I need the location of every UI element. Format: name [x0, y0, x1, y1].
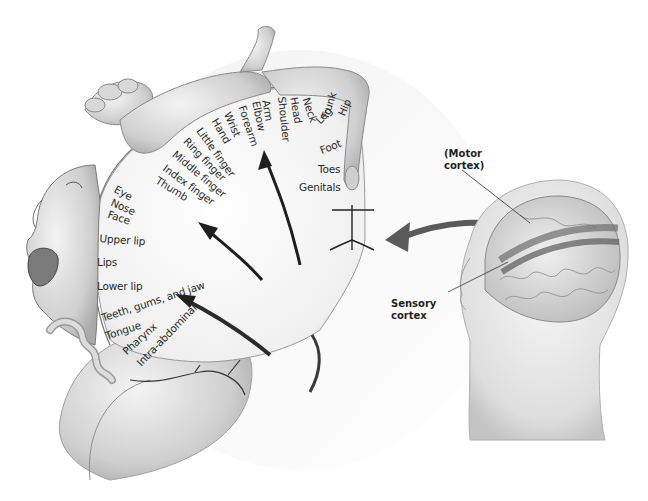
homunculus-diagram: Neck Head Shoulder Arm Elbow Forearm Wri… [0, 0, 648, 501]
label-genitals: Genitals [299, 181, 341, 193]
label-lower-lip: Lower lip [97, 280, 143, 292]
label-toes: Toes [318, 163, 340, 175]
illustration [0, 0, 648, 501]
motor-cortex-label: (Motor cortex) [444, 148, 484, 172]
sensory-cortex-label: Sensory cortex [391, 298, 436, 322]
label-lips: Lips [97, 256, 117, 268]
